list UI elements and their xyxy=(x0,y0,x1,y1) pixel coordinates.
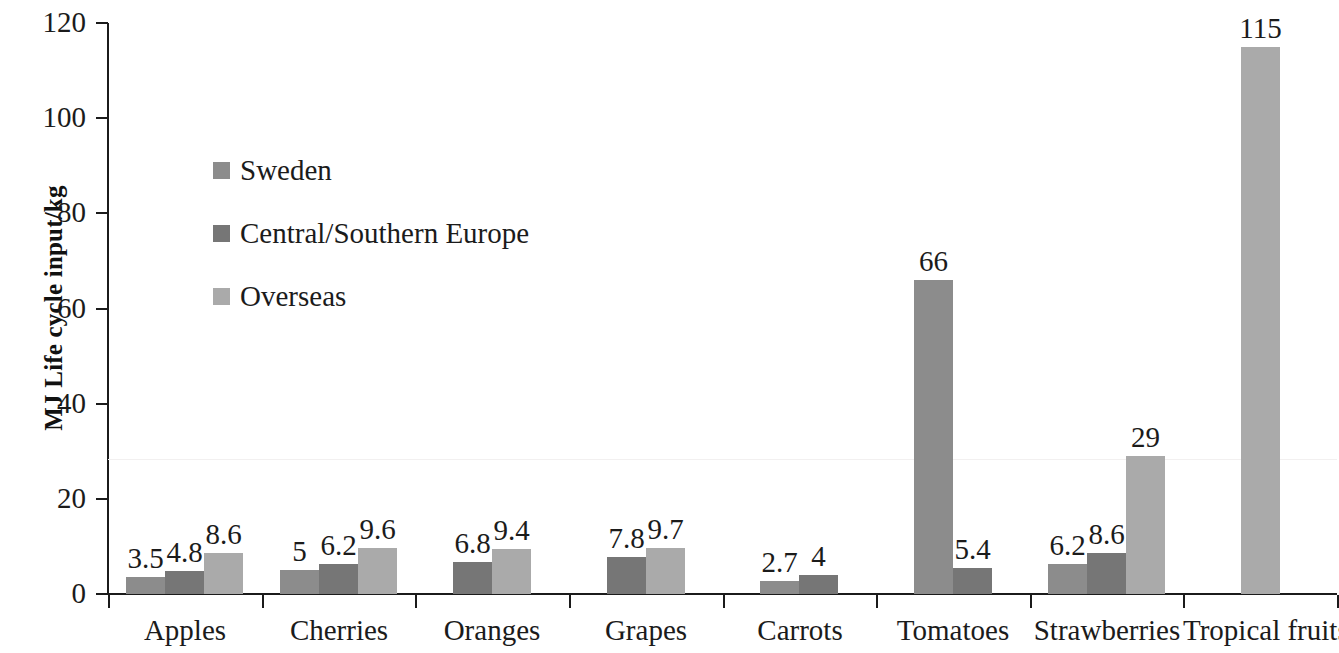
x-tick-label: Tomatoes xyxy=(876,613,1030,647)
x-tick-mark xyxy=(415,595,417,608)
bar-value-label: 29 xyxy=(1114,423,1177,452)
bar xyxy=(1126,456,1165,594)
bar-value-label: 4 xyxy=(787,542,850,571)
legend-item: Central/Southern Europe xyxy=(213,211,529,255)
bar xyxy=(204,553,243,594)
legend-swatch-icon xyxy=(213,162,230,179)
bar-value-label: 115 xyxy=(1229,14,1292,43)
bar xyxy=(1048,564,1087,594)
bar xyxy=(953,568,992,594)
bar xyxy=(358,548,397,594)
chart-legend: SwedenCentral/Southern EuropeOverseas xyxy=(213,148,529,337)
x-tick-mark xyxy=(1030,595,1032,608)
bar xyxy=(453,562,492,594)
legend-item: Sweden xyxy=(213,148,529,192)
x-tick-label: Grapes xyxy=(569,613,723,647)
x-tick-mark xyxy=(723,595,725,608)
x-tick-mark xyxy=(569,595,571,608)
x-tick-label: Tropical fruits xyxy=(1183,613,1337,647)
bar xyxy=(319,564,358,594)
legend-label: Sweden xyxy=(240,156,332,185)
legend-item: Overseas xyxy=(213,274,529,318)
bar xyxy=(607,557,646,594)
legend-label: Overseas xyxy=(240,282,346,311)
x-tick-mark xyxy=(262,595,264,608)
x-tick-label: Oranges xyxy=(415,613,569,647)
x-tick-label: Carrots xyxy=(723,613,877,647)
bar-value-label: 66 xyxy=(902,247,965,276)
plot-area: 3.54.88.656.29.66.89.47.89.72.74665.46.2… xyxy=(0,0,1339,653)
legend-label: Central/Southern Europe xyxy=(240,219,529,248)
legend-swatch-icon xyxy=(213,225,230,242)
bar-value-label: 9.6 xyxy=(346,515,409,544)
bar-value-label: 5.4 xyxy=(941,535,1004,564)
bar xyxy=(126,577,165,594)
x-tick-mark xyxy=(1183,595,1185,608)
bar xyxy=(1241,47,1280,594)
x-tick-mark xyxy=(108,595,110,608)
bar-value-label: 8.6 xyxy=(192,520,255,549)
bar xyxy=(799,575,838,594)
x-tick-label: Cherries xyxy=(262,613,416,647)
bar-value-label: 9.7 xyxy=(634,515,697,544)
x-tick-label: Apples xyxy=(108,613,262,647)
legend-swatch-icon xyxy=(213,288,230,305)
x-tick-mark xyxy=(876,595,878,608)
bar xyxy=(280,570,319,594)
bar xyxy=(165,571,204,594)
bar xyxy=(646,548,685,594)
bar xyxy=(760,581,799,594)
bar xyxy=(1087,553,1126,594)
x-tick-label: Strawberries xyxy=(1030,613,1184,647)
bar xyxy=(492,549,531,594)
bar-value-label: 9.4 xyxy=(480,516,543,545)
bar-chart: MJ Life cycle input/kg 020406080100120 3… xyxy=(0,0,1339,653)
